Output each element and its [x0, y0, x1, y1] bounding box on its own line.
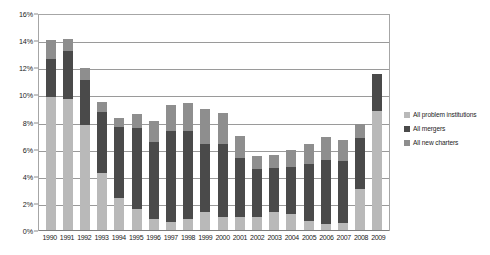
bar-segment[interactable]	[46, 59, 56, 97]
bar-column[interactable]	[214, 15, 231, 231]
legend-item[interactable]: All problem institutions	[404, 111, 490, 119]
stacked-bar[interactable]	[252, 156, 262, 231]
bar-column[interactable]	[180, 15, 197, 231]
bar-segment[interactable]	[166, 105, 176, 131]
bar-column[interactable]	[231, 15, 248, 231]
bar-column[interactable]	[266, 15, 283, 231]
bar-segment[interactable]	[286, 150, 296, 167]
bar-column[interactable]	[76, 15, 93, 231]
legend-item[interactable]: All mergers	[404, 125, 490, 133]
stacked-bar[interactable]	[338, 140, 348, 231]
stacked-bar[interactable]	[304, 144, 314, 231]
bar-segment[interactable]	[200, 109, 210, 144]
bar-segment[interactable]	[63, 99, 73, 231]
bar-segment[interactable]	[114, 127, 124, 198]
bar-column[interactable]	[42, 15, 59, 231]
bar-segment[interactable]	[355, 138, 365, 189]
bar-column[interactable]	[94, 15, 111, 231]
bar-segment[interactable]	[149, 142, 159, 219]
bar-segment[interactable]	[321, 137, 331, 159]
bar-segment[interactable]	[97, 112, 107, 173]
bar-column[interactable]	[283, 15, 300, 231]
y-axis-tick-label: 0%	[0, 227, 33, 236]
bar-segment[interactable]	[200, 144, 210, 212]
bar-column[interactable]	[145, 15, 162, 231]
bar-segment[interactable]	[80, 68, 90, 80]
bar-segment[interactable]	[286, 167, 296, 214]
bar-segment[interactable]	[252, 217, 262, 231]
bar-segment[interactable]	[218, 144, 228, 217]
bar-segment[interactable]	[355, 124, 365, 138]
bar-segment[interactable]	[235, 217, 245, 231]
bar-segment[interactable]	[200, 212, 210, 231]
stacked-bar[interactable]	[183, 103, 193, 231]
bar-segment[interactable]	[235, 136, 245, 158]
bar-segment[interactable]	[114, 198, 124, 231]
bar-column[interactable]	[369, 15, 386, 231]
stacked-bar[interactable]	[355, 124, 365, 231]
bar-segment[interactable]	[97, 102, 107, 111]
bar-column[interactable]	[197, 15, 214, 231]
bar-segment[interactable]	[46, 97, 56, 231]
stacked-bar[interactable]	[132, 114, 142, 231]
bar-segment[interactable]	[46, 40, 56, 59]
bar-segment[interactable]	[269, 168, 279, 212]
bar-column[interactable]	[59, 15, 76, 231]
bar-segment[interactable]	[132, 209, 142, 231]
bar-segment[interactable]	[269, 155, 279, 168]
stacked-bar[interactable]	[97, 102, 107, 231]
bar-segment[interactable]	[304, 164, 314, 221]
stacked-bar[interactable]	[166, 105, 176, 231]
chart-container: 0%2%4%6%8%10%12%14%16% 19901991199219931…	[0, 0, 490, 255]
bar-segment[interactable]	[149, 121, 159, 141]
stacked-bar[interactable]	[235, 136, 245, 231]
bar-segment[interactable]	[63, 51, 73, 98]
stacked-bar[interactable]	[372, 74, 382, 231]
bar-segment[interactable]	[252, 156, 262, 170]
bar-segment[interactable]	[355, 189, 365, 231]
bar-column[interactable]	[352, 15, 369, 231]
bar-segment[interactable]	[338, 140, 348, 160]
legend-label: All mergers	[413, 125, 445, 133]
bar-segment[interactable]	[132, 114, 142, 128]
bar-column[interactable]	[128, 15, 145, 231]
bar-segment[interactable]	[218, 217, 228, 231]
bar-column[interactable]	[317, 15, 334, 231]
bar-segment[interactable]	[218, 113, 228, 144]
bar-segment[interactable]	[166, 131, 176, 222]
bar-segment[interactable]	[80, 80, 90, 125]
bar-segment[interactable]	[63, 39, 73, 51]
bar-segment[interactable]	[97, 173, 107, 231]
bar-segment[interactable]	[269, 212, 279, 231]
stacked-bar[interactable]	[200, 109, 210, 231]
bar-column[interactable]	[300, 15, 317, 231]
bar-segment[interactable]	[252, 169, 262, 216]
bar-segment[interactable]	[372, 74, 382, 111]
stacked-bar[interactable]	[286, 150, 296, 231]
bar-segment[interactable]	[183, 103, 193, 131]
stacked-bar[interactable]	[46, 40, 56, 231]
bar-column[interactable]	[334, 15, 351, 231]
stacked-bar[interactable]	[269, 155, 279, 231]
bar-segment[interactable]	[114, 118, 124, 126]
bar-column[interactable]	[111, 15, 128, 231]
bar-column[interactable]	[248, 15, 265, 231]
stacked-bar[interactable]	[114, 118, 124, 231]
bar-segment[interactable]	[372, 111, 382, 231]
stacked-bar[interactable]	[321, 137, 331, 231]
bar-segment[interactable]	[321, 160, 331, 224]
stacked-bar[interactable]	[80, 68, 90, 231]
legend-item[interactable]: All new charters	[404, 139, 490, 147]
stacked-bar[interactable]	[63, 39, 73, 231]
bar-segment[interactable]	[132, 128, 142, 209]
bar-segment[interactable]	[286, 214, 296, 231]
bar-column[interactable]	[162, 15, 179, 231]
bar-segment[interactable]	[183, 131, 193, 219]
bar-segment[interactable]	[235, 158, 245, 217]
legend-swatch-icon	[404, 126, 410, 132]
stacked-bar[interactable]	[149, 121, 159, 231]
stacked-bar[interactable]	[218, 113, 228, 231]
bar-segment[interactable]	[338, 161, 348, 223]
bar-segment[interactable]	[80, 125, 90, 231]
bar-segment[interactable]	[304, 144, 314, 164]
